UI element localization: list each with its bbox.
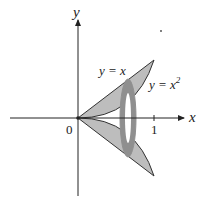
parabola-label-exponent: 2 [176, 75, 181, 85]
solid-of-revolution-diagram: y x 0 1 y = x y = x2 [0, 0, 207, 204]
diagram-canvas: y x 0 1 y = x y = x2 [0, 0, 207, 204]
x-tick-label: 1 [151, 122, 158, 137]
line-curve-label: y = x [97, 63, 126, 78]
parabola-label-base: y = x [147, 77, 176, 92]
x-axis-label: x [188, 109, 196, 125]
parabola-curve-label: y = x2 [147, 75, 181, 92]
lower-region [78, 118, 154, 176]
origin-label: 0 [66, 122, 73, 137]
y-axis-label: y [71, 4, 80, 20]
origin-point [76, 116, 80, 120]
stray-dot [160, 30, 162, 32]
